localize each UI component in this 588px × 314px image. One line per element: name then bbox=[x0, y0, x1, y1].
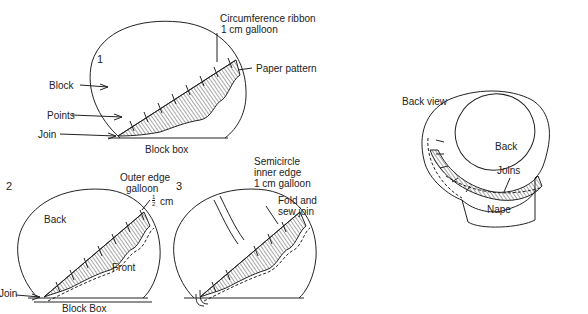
block-box-label: Block box bbox=[145, 144, 188, 155]
back-label-panel-2: Back bbox=[44, 214, 66, 225]
paper-pattern-label: Paper pattern bbox=[256, 63, 317, 74]
join-label-1: Join bbox=[38, 129, 56, 140]
block-box-label-2: Block Box bbox=[62, 303, 106, 314]
back-label-back-view: Back bbox=[495, 141, 517, 152]
half-denominator: 2 bbox=[152, 200, 155, 207]
half-cm-unit: cm bbox=[160, 196, 173, 207]
semicircle-label: Semicircle bbox=[254, 156, 300, 167]
sew-join-label: sew join bbox=[278, 206, 314, 217]
panel-2-number: 2 bbox=[6, 181, 12, 192]
front-label: Front bbox=[112, 262, 135, 273]
circumference-galloon-label: 1 cm galloon bbox=[221, 24, 278, 35]
semicircle-galloon-label: 1 cm galloon bbox=[254, 178, 311, 189]
points-label: Points bbox=[47, 110, 75, 121]
circumference-ribbon-label: Circumference ribbon bbox=[220, 13, 316, 24]
panel-3-number: 3 bbox=[176, 181, 182, 192]
inner-edge-label: inner edge bbox=[254, 167, 301, 178]
fold-label: Fold and bbox=[278, 195, 317, 206]
outer-edge-galloon-label: galloon bbox=[126, 183, 158, 194]
block-label: Block bbox=[49, 80, 73, 91]
outer-edge-label: Outer edge bbox=[120, 172, 170, 183]
back-view-title: Back view bbox=[402, 96, 447, 107]
join-label-2: Join bbox=[0, 288, 17, 299]
joins-label: Joins bbox=[497, 165, 520, 176]
panel-1-drawing bbox=[60, 21, 252, 139]
panel-1-number: 1 bbox=[97, 54, 103, 65]
panel-2-drawing bbox=[16, 189, 160, 302]
nape-label: Nape bbox=[487, 204, 511, 215]
